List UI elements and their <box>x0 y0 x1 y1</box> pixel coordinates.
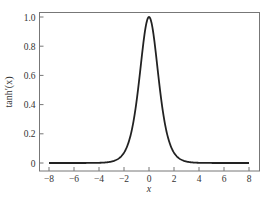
y-tick-label: 0.8 <box>24 42 36 52</box>
y-tick-label: 0.6 <box>24 71 36 81</box>
x-axis-label: x <box>146 183 152 194</box>
y-axis-ticks: 00.20.40.60.81.0 <box>24 13 44 169</box>
chart: −8−6−4−202468 00.20.40.60.81.0 x tanh′(x… <box>0 0 265 203</box>
x-tick-label: −2 <box>119 174 129 184</box>
x-tick-label: 8 <box>247 174 252 184</box>
y-tick-label: 1.0 <box>24 13 36 23</box>
x-tick-label: 4 <box>197 174 202 184</box>
x-tick-label: 6 <box>222 174 227 184</box>
y-tick-label: 0.4 <box>24 100 36 110</box>
y-tick-label: 0.2 <box>24 129 36 139</box>
data-line <box>49 17 249 163</box>
plot-frame <box>40 13 260 172</box>
x-tick-label: −8 <box>44 174 54 184</box>
x-tick-label: 2 <box>172 174 177 184</box>
x-tick-label: −6 <box>69 174 79 184</box>
x-tick-label: −4 <box>94 174 104 184</box>
x-axis-ticks: −8−6−4−202468 <box>44 167 252 184</box>
y-axis-label: tanh′(x) <box>3 76 15 107</box>
y-tick-label: 0 <box>31 159 36 169</box>
